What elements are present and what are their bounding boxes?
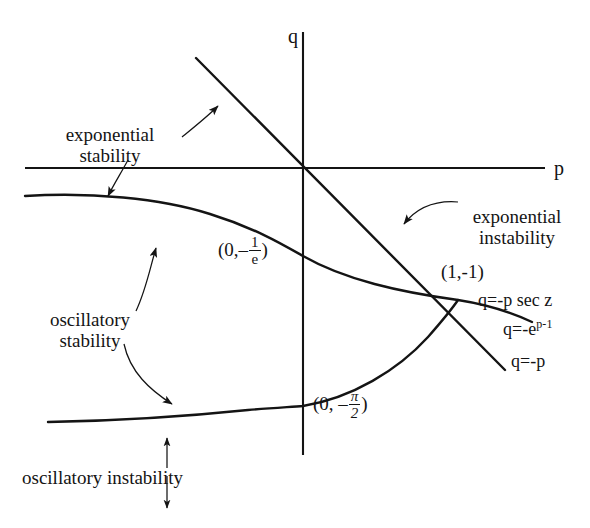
fraction-1-over-e-numerator: 1	[249, 235, 261, 251]
annotation-oscillatory-instability: oscillatory instability	[22, 468, 183, 489]
arrow-oscillatory-stability-to-sec-curve	[136, 248, 156, 311]
point-0-neg-pi-over-2-prefix: (0,	[313, 393, 334, 414]
curve-label-q-eq-neg-p-sec-z: q=-p sec z	[478, 291, 552, 310]
point-0-neg-1-over-e-suffix: )	[262, 239, 268, 260]
annotation-exponential-stability: exponential stability	[45, 125, 175, 166]
fraction-1-over-e: 1 e	[249, 235, 261, 267]
curve-label-q-eq-neg-p: q=-p	[511, 352, 545, 371]
point-0-neg-pi-over-2-minus: –	[338, 393, 348, 414]
fraction-pi-over-2-numerator: π	[349, 389, 361, 405]
fraction-pi-over-2: π 2	[349, 389, 361, 421]
point-0-neg-pi-over-2-suffix: )	[361, 393, 367, 414]
point-label-0-neg-1-over-e: (0,– 1 e )	[218, 236, 268, 268]
point-label-1-neg-1: (1,-1)	[441, 262, 484, 283]
annotation-exponential-instability-line2: instability	[452, 228, 582, 249]
point-label-0-neg-pi-over-2: (0, – π 2 )	[313, 390, 368, 422]
point-0-neg-1-over-e-prefix: (0,	[218, 239, 239, 260]
p-axis-label: p	[554, 158, 564, 180]
annotation-arrows-group	[108, 106, 458, 508]
stability-diagram-graphics	[0, 0, 590, 528]
fraction-1-over-e-denominator: e	[249, 251, 261, 267]
curve-label-exp-base: q=-e	[503, 319, 536, 339]
annotation-exponential-stability-line2: stability	[45, 146, 175, 167]
arrow-exponential-instability	[404, 202, 458, 224]
annotation-oscillatory-stability: oscillatory stability	[25, 310, 155, 351]
curve-label-q-eq-neg-e-pow-p-minus-1: q=-ep-1	[503, 318, 553, 339]
fraction-pi-over-2-denominator: 2	[349, 405, 361, 421]
annotation-oscillatory-stability-line1: oscillatory	[25, 310, 155, 331]
point-0-neg-1-over-e-minus: –	[239, 239, 249, 260]
annotation-oscillatory-stability-line2: stability	[25, 331, 155, 352]
figure-canvas: q p exponential stability exponential in…	[0, 0, 590, 528]
annotation-exponential-instability: exponential instability	[452, 207, 582, 248]
curve-label-exp-exponent: p-1	[536, 317, 553, 331]
arrow-oscillatory-stability-to-exp-curve	[124, 344, 172, 404]
annotation-exponential-instability-line1: exponential	[452, 207, 582, 228]
arrow-exponential-stability-to-line	[182, 106, 218, 137]
annotation-exponential-stability-line1: exponential	[45, 125, 175, 146]
q-axis-label: q	[288, 26, 298, 48]
